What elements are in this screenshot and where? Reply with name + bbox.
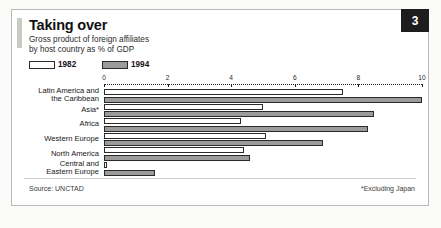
category-label-line: the Caribbean: [38, 95, 99, 104]
category-label-line: Eastern Europe: [46, 168, 99, 177]
bar-group: [104, 133, 422, 147]
axis-tick-6: [295, 84, 296, 87]
bar-1994: [104, 111, 374, 117]
category-label-line: North America: [51, 150, 99, 159]
bar-1994: [104, 97, 422, 103]
legend-item-1982: 1982: [29, 60, 76, 69]
chart-subtitle: Gross product of foreign affiliates by h…: [29, 35, 289, 55]
bars-area: 0246810: [104, 73, 422, 177]
category-label-line: Africa: [80, 120, 99, 129]
footer-divider: [24, 178, 416, 179]
axis-tick-10: [422, 84, 423, 87]
category-label: North America: [51, 150, 99, 159]
bar-group: [104, 147, 422, 161]
bar-1994: [104, 155, 250, 161]
axis-tick-label-6: 6: [293, 74, 297, 81]
value-axis: 0246810: [104, 73, 422, 87]
axis-tick-8: [358, 84, 359, 87]
axis-dotted-line: [104, 84, 422, 85]
category-label-line: Asia*: [81, 106, 99, 115]
bar-1994: [104, 170, 155, 176]
page-number-badge: 3: [401, 9, 429, 32]
legend-item-1994: 1994: [102, 60, 149, 69]
subtitle-line-1: Gross product of foreign affiliates: [29, 35, 289, 45]
legend-label-1994: 1994: [131, 60, 149, 69]
category-label: Africa: [80, 120, 99, 129]
bar-group: [104, 162, 422, 176]
axis-tick-4: [231, 84, 232, 87]
legend-swatch-1982: [29, 61, 55, 69]
bar-1982: [104, 147, 244, 153]
bar-1994: [104, 140, 323, 146]
category-label: Central andEastern Europe: [46, 160, 99, 177]
chart-card: Taking over Gross product of foreign aff…: [11, 9, 429, 206]
axis-tick-label-4: 4: [229, 74, 233, 81]
axis-tick-label-8: 8: [357, 74, 361, 81]
axis-tick-label-0: 0: [102, 74, 106, 81]
category-label: Western Europe: [44, 135, 99, 144]
axis-tick-label-2: 2: [166, 74, 170, 81]
footnote-label: *Excluding Japan: [361, 185, 415, 192]
axis-tick-label-10: 10: [418, 74, 425, 81]
legend-label-1982: 1982: [58, 60, 76, 69]
category-label: Latin America andthe Caribbean: [38, 87, 99, 104]
title-accent-bar: [17, 18, 22, 48]
bar-1982: [104, 104, 263, 110]
bar-1994: [104, 126, 368, 132]
chart-page: Taking over Gross product of foreign aff…: [0, 0, 441, 228]
bar-group: [104, 104, 422, 118]
subtitle-line-2: by host country as % of GDP: [29, 45, 289, 55]
bar-group: [104, 118, 422, 132]
category-axis-labels: Latin America andthe CaribbeanAsia*Afric…: [12, 73, 104, 177]
source-label: Source: UNCTAD: [29, 185, 84, 192]
page-title: Taking over: [29, 17, 107, 33]
bar-1982: [104, 133, 266, 139]
bar-group: [104, 89, 422, 103]
axis-tick-0: [104, 84, 105, 87]
legend-swatch-1994: [102, 61, 128, 69]
chart-plot-area: Latin America andthe CaribbeanAsia*Afric…: [12, 73, 430, 177]
bar-1982: [104, 162, 107, 168]
category-label: Asia*: [81, 106, 99, 115]
bar-1982: [104, 89, 343, 95]
category-label-line: Western Europe: [44, 135, 99, 144]
bar-1982: [104, 118, 241, 124]
axis-tick-2: [168, 84, 169, 87]
